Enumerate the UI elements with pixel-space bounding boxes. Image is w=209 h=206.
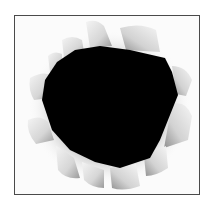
torn-paper-illustration — [0, 0, 209, 206]
